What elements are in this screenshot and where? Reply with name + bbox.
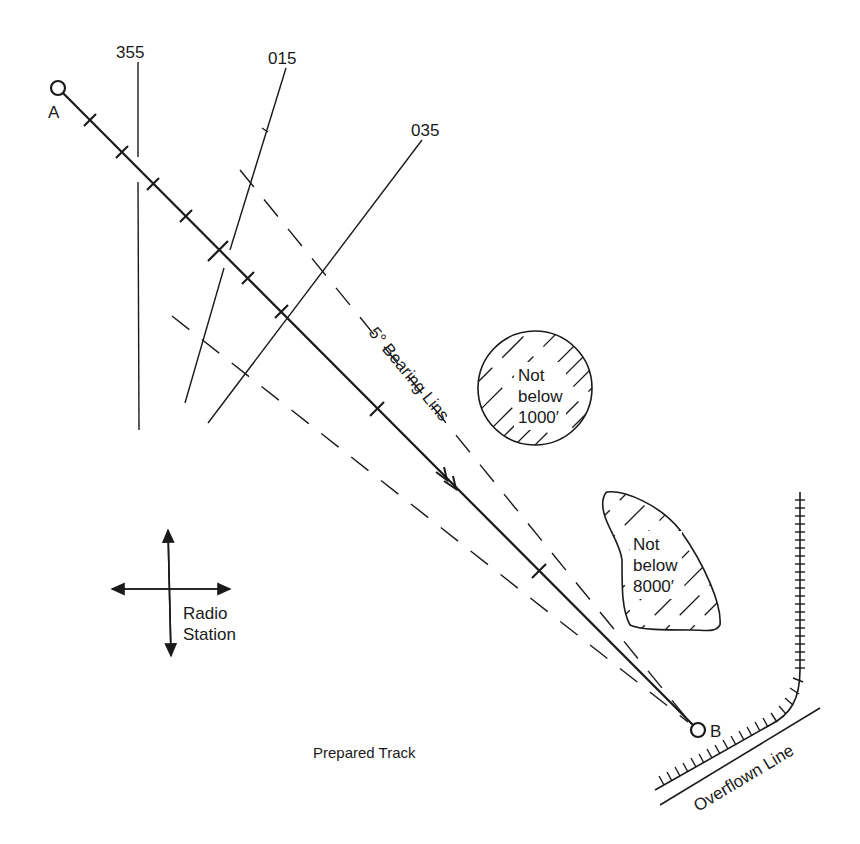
restriction-text-line2: below: [633, 556, 678, 575]
restriction-text-line2: below: [518, 387, 563, 406]
restricted-area-1000: Not below 1000′: [430, 310, 630, 490]
bearing-label-035: 035: [411, 121, 439, 140]
prepared-track-line: [58, 88, 696, 728]
waypoint-b-label: B: [710, 722, 721, 741]
waypoint-a-circle: [51, 81, 65, 95]
bearing-label-015: 015: [268, 49, 296, 68]
radio-station: Radio Station: [112, 530, 236, 656]
waypoint-b-circle: [691, 723, 705, 737]
restriction-text-line3: 8000′: [633, 577, 674, 596]
bearing-line-015: 015: [185, 49, 296, 403]
bearing-5deg-dashed-lines: [172, 170, 688, 722]
radio-station-label-line1: Radio: [183, 604, 227, 623]
radio-station-label-line2: Station: [183, 625, 236, 644]
waypoint-a: A: [48, 81, 65, 122]
bearing-label-355: 355: [116, 43, 144, 62]
restricted-area-8000: Not below 8000′: [590, 470, 770, 645]
waypoint-a-label: A: [48, 103, 60, 122]
prepared-track-diagram: 355 015 035 5° Bearing Lins: [0, 0, 860, 844]
bearing-line-355: 355: [116, 43, 144, 430]
overflown-line-label: Overflown Line: [690, 741, 797, 816]
restriction-text-line1: Not: [633, 535, 660, 554]
restriction-text-line3: 1000′: [518, 408, 559, 427]
waypoint-b: B: [691, 722, 721, 741]
restriction-text-line1: Not: [518, 366, 545, 385]
diagram-title: Prepared Track: [313, 744, 416, 761]
